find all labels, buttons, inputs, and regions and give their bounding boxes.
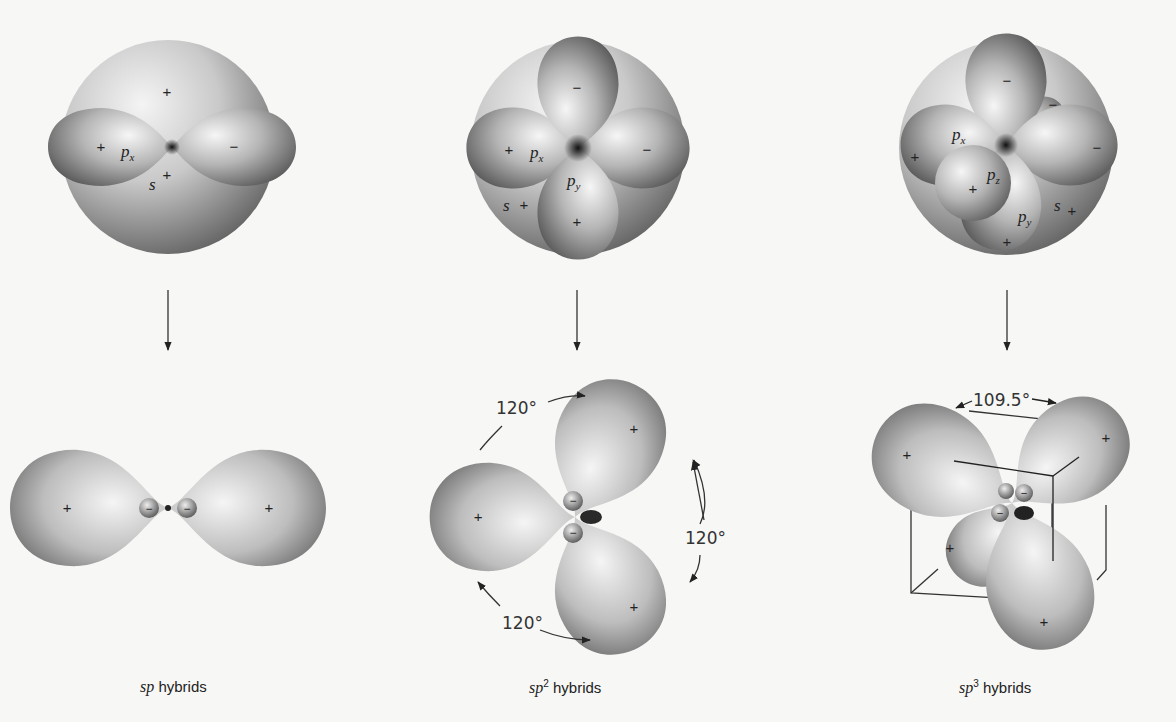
sp-unhybridized-orbitals: + + − + px s xyxy=(48,40,296,254)
label-s: s xyxy=(149,175,156,194)
caption-text: hybrids xyxy=(154,678,207,695)
sp2-unhybridized-orbitals: − + − + + px py s xyxy=(466,36,689,259)
angle-label-right: 120° xyxy=(685,528,726,548)
sign-px-left: + xyxy=(911,148,920,165)
sign-small: − xyxy=(569,494,576,508)
caption-text: hybrids xyxy=(979,679,1032,696)
sign-hybrid-upper: + xyxy=(630,420,639,437)
sign-py-top: − xyxy=(1003,72,1012,89)
caption-italic: sp xyxy=(529,679,543,696)
caption-italic: sp xyxy=(959,679,973,696)
caption-text: hybrids xyxy=(549,679,602,696)
caption-sp3-hybrids: sp3 hybrids xyxy=(959,678,1031,697)
label-s: s xyxy=(503,196,510,215)
sign-hybrid-left: + xyxy=(63,499,72,516)
caption-italic: sp xyxy=(140,678,154,695)
sign-pz-front: + xyxy=(969,180,978,197)
sign-px-right: − xyxy=(1093,139,1102,156)
sign-hybrid: + xyxy=(1040,613,1049,630)
sp3-hybrid-orbitals: − − + + + + 109.5° xyxy=(853,376,1150,663)
sp2-hybrid-lobe-left xyxy=(430,463,575,571)
sign-small-left: − xyxy=(145,502,152,516)
sign-small: − xyxy=(1021,487,1027,499)
sign-py-bottom: + xyxy=(1003,233,1012,250)
label-s: s xyxy=(1054,196,1061,215)
caption-sp2-hybrids: sp2 hybrids xyxy=(529,678,601,697)
sign-small: − xyxy=(997,507,1003,519)
sp3-unhybridized-orbitals: − − + − + + + px pz py s xyxy=(899,33,1118,255)
sign-hybrid: + xyxy=(1102,429,1111,446)
sign-hybrid: + xyxy=(903,446,912,463)
sign-py-bottom: + xyxy=(573,213,582,230)
sign-small: − xyxy=(569,526,576,540)
sign-px-left: + xyxy=(97,138,106,155)
sign-hybrid-right: + xyxy=(265,499,274,516)
sign-hybrid-lower: + xyxy=(630,598,639,615)
hybrid-orbitals-figure: + + − + px s − − + + − + − + + px py xyxy=(0,0,1176,722)
sign-py-top: − xyxy=(573,79,582,96)
sign-s: + xyxy=(1068,202,1077,219)
sp-hybrid-orbitals: − − + + xyxy=(10,450,326,566)
sign-px-right: − xyxy=(643,141,652,158)
sign-px-right: − xyxy=(230,138,239,155)
angle-label: 109.5° xyxy=(973,390,1030,410)
caption-sp-hybrids: sp hybrids xyxy=(140,678,207,696)
sign-s-bottom: + xyxy=(163,166,172,183)
sp2-hybrid-orbitals: − − + + + xyxy=(430,362,684,672)
angle-label-top: 120° xyxy=(496,398,537,418)
sign-px-left: + xyxy=(505,141,514,158)
sign-small-right: − xyxy=(183,502,190,516)
sign-s-top: + xyxy=(163,83,172,100)
sign-hybrid: + xyxy=(946,539,955,556)
angle-label-bottom: 120° xyxy=(502,613,543,633)
sign-pz-back: − xyxy=(1049,96,1058,113)
sign-s: + xyxy=(520,196,529,213)
sign-hybrid-left: + xyxy=(474,508,483,525)
